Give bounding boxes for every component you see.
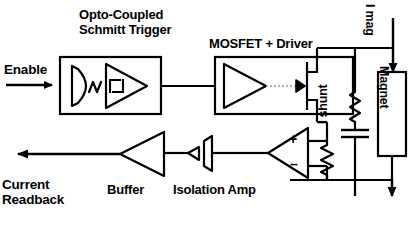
isolation-amp-label: Isolation Amp <box>173 183 256 198</box>
opamp-minus-label: – <box>290 157 298 173</box>
isolation-amp-icon <box>164 136 244 171</box>
i-mag-label: I mag <box>363 4 377 36</box>
differential-amplifier-icon <box>244 128 327 180</box>
opto-block-label: Opto-Coupled Schmitt Trigger <box>79 8 171 37</box>
damping-resistor-icon <box>350 88 360 126</box>
capacitor-icon <box>341 126 369 196</box>
enable-signal-label: Enable <box>4 62 47 77</box>
current-readback-label: Current Readback <box>2 177 64 207</box>
return-rail <box>290 180 392 196</box>
opto-coupled-schmitt-trigger-block <box>60 57 161 114</box>
led-emitter-icon <box>72 66 86 106</box>
mosfet-block-label: MOSFET + Driver <box>209 37 313 52</box>
opamp-plus-label: + <box>289 132 297 148</box>
circuit-diagram: Opto-Coupled Schmitt Trigger MOSFET + Dr… <box>0 0 410 231</box>
mosfet-driver-block <box>215 57 353 114</box>
optical-coupling-icon <box>89 82 101 92</box>
mosfet-icon <box>296 62 317 110</box>
magnet-label: Magnet <box>377 66 391 109</box>
schmitt-trigger-icon <box>106 64 147 108</box>
buffer-amplifier-icon <box>120 132 164 176</box>
i-shunt-label: I shunt <box>316 84 330 124</box>
gate-driver-amplifier-icon <box>224 64 266 108</box>
buffer-label: Buffer <box>107 183 144 198</box>
